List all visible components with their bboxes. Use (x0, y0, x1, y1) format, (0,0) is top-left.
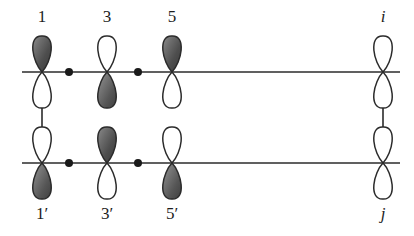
orbital-label-top-chain-3: i (381, 8, 386, 25)
orbital-lobe-top-top-chain-1 (98, 36, 116, 72)
orbital-label-top-chain-0: 1 (38, 8, 47, 25)
node-dot-bottom-chain-0 (65, 159, 73, 167)
vertical-connector-group (42, 108, 383, 127)
bond-line-group (22, 72, 400, 163)
orbital-diagram-canvas (0, 0, 414, 236)
orbital-lobe-bottom-bottom-chain-1 (98, 163, 116, 199)
orbital-lobe-top-bottom-chain-1 (98, 127, 116, 163)
orbital-lobe-bottom-top-chain-3 (374, 72, 392, 108)
node-dot-top-chain-1 (134, 68, 142, 76)
orbital-label-bottom-chain-3: j (381, 205, 386, 222)
orbital-lobe-top-top-chain-0 (33, 36, 51, 72)
orbital-lobe-top-bottom-chain-0 (33, 127, 51, 163)
orbital-label-bottom-chain-2: 5′ (166, 205, 178, 222)
node-dot-bottom-chain-1 (134, 159, 142, 167)
orbital-label-bottom-chain-1: 3′ (101, 205, 113, 222)
orbital-label-top-chain-2: 5 (168, 8, 177, 25)
orbital-lobe-group (33, 36, 392, 199)
orbital-lobe-top-top-chain-3 (374, 36, 392, 72)
orbital-lobe-bottom-bottom-chain-2 (163, 163, 181, 199)
orbital-diagram: 135i1′3′5′j (0, 0, 414, 236)
orbital-lobe-bottom-bottom-chain-0 (33, 163, 51, 199)
node-dot-top-chain-0 (65, 68, 73, 76)
orbital-lobe-bottom-top-chain-2 (163, 72, 181, 108)
orbital-lobe-bottom-bottom-chain-3 (374, 163, 392, 199)
orbital-lobe-top-bottom-chain-3 (374, 127, 392, 163)
orbital-label-top-chain-1: 3 (103, 8, 112, 25)
orbital-lobe-bottom-top-chain-0 (33, 72, 51, 108)
orbital-label-bottom-chain-0: 1′ (36, 205, 48, 222)
orbital-lobe-top-bottom-chain-2 (163, 127, 181, 163)
orbital-lobe-top-top-chain-2 (163, 36, 181, 72)
orbital-lobe-bottom-top-chain-1 (98, 72, 116, 108)
